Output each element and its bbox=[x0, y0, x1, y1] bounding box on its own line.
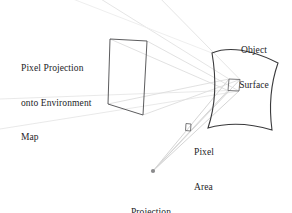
ray-env-7 bbox=[110, 39, 228, 91]
label-pixel-projection-line2: onto Environment bbox=[21, 98, 91, 110]
label-pixel-projection: Pixel Projection onto Environment Map bbox=[21, 40, 91, 167]
label-prp-line1: Projection bbox=[85, 207, 217, 213]
label-projection-reference-point: Projection Reference Point bbox=[85, 184, 217, 213]
label-pixel-projection-line1: Pixel Projection bbox=[21, 63, 91, 75]
label-object-surface: Object Surface bbox=[216, 22, 292, 114]
label-pixel-area-line1: Pixel bbox=[194, 147, 214, 159]
label-object-surface-line2: Surface bbox=[216, 80, 292, 92]
label-object-surface-line1: Object bbox=[216, 45, 292, 57]
diagram-canvas: Pixel Projection onto Environment Map Ob… bbox=[0, 0, 292, 213]
environment-map-quad bbox=[108, 39, 147, 115]
projection-reference-point-dot bbox=[151, 169, 155, 173]
label-pixel-projection-line3: Map bbox=[21, 132, 91, 144]
